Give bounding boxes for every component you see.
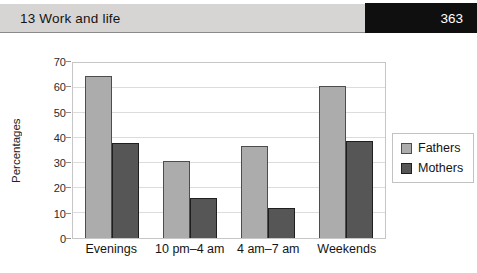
bar-group xyxy=(229,63,307,238)
y-tick-label: 70 xyxy=(36,56,66,68)
y-axis-labels: 010203040506070 xyxy=(36,62,66,239)
bar-group xyxy=(307,63,385,238)
page-number-box: 363 xyxy=(365,3,477,33)
axis-tick xyxy=(66,187,71,188)
axis-tick xyxy=(66,137,71,138)
category-label: Evenings xyxy=(72,242,151,256)
bar-fathers xyxy=(85,76,112,238)
axis-tick xyxy=(66,213,71,214)
y-tick-label: 0 xyxy=(36,233,66,245)
page-number: 363 xyxy=(440,11,463,26)
y-axis-title: Percentages xyxy=(8,62,24,239)
y-tick-label: 20 xyxy=(36,182,66,194)
axis-tick xyxy=(66,162,71,163)
legend-item: Mothers xyxy=(401,161,463,175)
category-label: 4 am–7 am xyxy=(229,242,308,256)
x-axis-labels: Evenings10 pm–4 am4 am–7 amWeekends xyxy=(72,242,386,256)
category-label: 10 pm–4 am xyxy=(151,242,230,256)
chapter-title: 13 Work and life xyxy=(20,4,121,32)
bar-mothers xyxy=(268,208,295,238)
y-tick-label: 40 xyxy=(36,132,66,144)
legend-label: Fathers xyxy=(418,141,460,155)
axis-tick xyxy=(66,61,71,62)
axis-tick xyxy=(66,112,71,113)
legend-swatch-mothers xyxy=(401,163,412,174)
book-page: 13 Work and life 363 Percentages 0102030… xyxy=(0,0,477,273)
bar-group xyxy=(73,63,151,238)
legend-label: Mothers xyxy=(418,161,463,175)
y-tick-label: 10 xyxy=(36,208,66,220)
bar-mothers xyxy=(190,198,217,238)
bar-fathers xyxy=(163,161,190,239)
bar-fathers xyxy=(319,86,346,239)
plot-area xyxy=(72,62,386,239)
bar-group xyxy=(151,63,229,238)
bar-fathers xyxy=(241,146,268,239)
bar-mothers xyxy=(112,143,139,238)
y-tick-label: 60 xyxy=(36,81,66,93)
y-tick-label: 30 xyxy=(36,157,66,169)
legend-item: Fathers xyxy=(401,141,463,155)
bar-groups xyxy=(73,63,385,238)
category-label: Weekends xyxy=(308,242,387,256)
axis-tick xyxy=(66,238,71,239)
header-band: 13 Work and life 363 xyxy=(0,4,477,33)
y-tick-label: 50 xyxy=(36,107,66,119)
legend-swatch-fathers xyxy=(401,143,412,154)
bar-mothers xyxy=(346,141,373,239)
legend: FathersMothers xyxy=(392,133,474,183)
axis-tick xyxy=(66,86,71,87)
